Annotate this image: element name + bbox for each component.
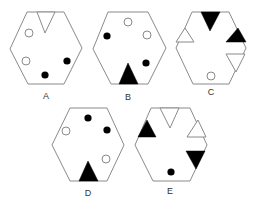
option-label-c: C: [208, 87, 215, 97]
filled-circle-icon: [63, 57, 70, 64]
open-circle-icon: [22, 57, 30, 65]
filled-circle-icon: [167, 168, 174, 175]
option-e[interactable]: E: [135, 108, 207, 196]
filled-circle-icon: [142, 59, 149, 66]
open-circle-icon: [143, 31, 151, 39]
option-label-e: E: [167, 186, 173, 196]
option-a[interactable]: A: [10, 12, 82, 101]
filled-circle-icon: [103, 32, 110, 39]
open-circle-icon: [25, 29, 33, 37]
option-label-b: B: [125, 92, 131, 102]
filled-circle-icon: [41, 71, 48, 78]
open-circle-icon: [124, 18, 132, 26]
puzzle-figure: A B C D: [0, 0, 253, 201]
option-d[interactable]: D: [52, 108, 124, 198]
open-circle-icon: [207, 72, 215, 80]
filled-circle-icon: [84, 114, 91, 121]
option-label-d: D: [85, 188, 92, 198]
option-b[interactable]: B: [93, 12, 166, 102]
option-c[interactable]: C: [176, 12, 246, 97]
open-circle-icon: [62, 127, 70, 135]
open-circle-icon: [102, 155, 110, 163]
option-label-a: A: [43, 91, 49, 101]
filled-circle-icon: [103, 126, 110, 133]
